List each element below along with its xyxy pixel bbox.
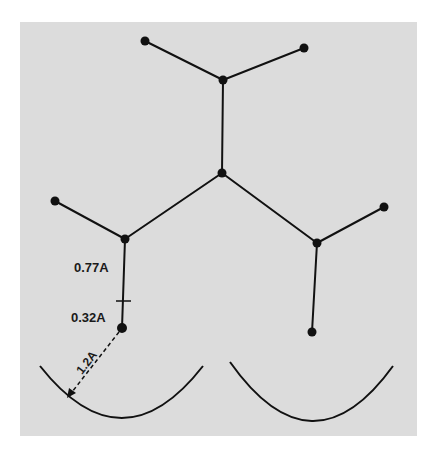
atom-upper-junction (219, 76, 228, 85)
offset-label: 0.32A (71, 310, 106, 325)
atom-right-end (380, 203, 389, 212)
atom-left-junction (121, 235, 130, 244)
atom-left-end (51, 197, 60, 206)
atom-right-junction (313, 239, 322, 248)
atom-center-junction (218, 169, 227, 178)
molecular-diagram: 0.77A 0.32A 1.2A (0, 0, 437, 452)
atom-top-right-end (300, 44, 309, 53)
atom-right-bottom-end (308, 328, 317, 337)
bond-length-label: 0.77A (74, 260, 109, 275)
atom-top-left-end (141, 37, 150, 46)
bond-upper-vertical (222, 80, 223, 173)
atom-left-bottom-end (117, 323, 127, 333)
